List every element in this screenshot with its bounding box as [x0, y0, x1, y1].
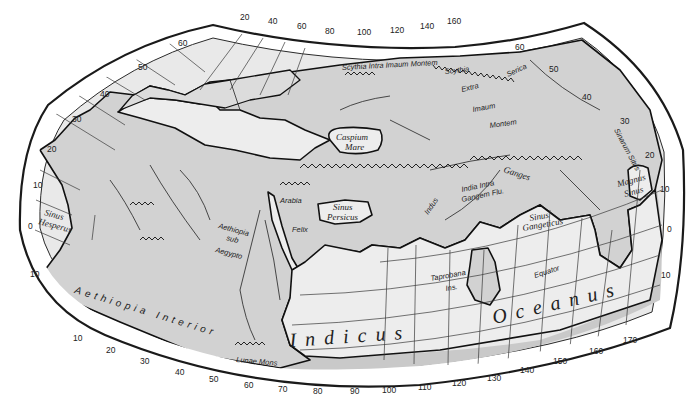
svg-text:140: 140	[420, 21, 434, 31]
svg-text:70: 70	[278, 384, 288, 394]
svg-text:170: 170	[623, 335, 637, 345]
svg-text:10: 10	[660, 184, 670, 194]
svg-text:60: 60	[297, 21, 307, 31]
svg-text:60: 60	[244, 380, 254, 390]
svg-text:60: 60	[515, 42, 525, 52]
svg-text:20: 20	[240, 12, 250, 22]
svg-text:110: 110	[418, 382, 432, 392]
svg-text:0: 0	[28, 221, 33, 231]
svg-text:160: 160	[447, 16, 461, 26]
svg-text:30: 30	[140, 356, 150, 366]
svg-text:80: 80	[313, 386, 323, 396]
svg-text:40: 40	[100, 89, 110, 99]
ptolemy-world-map: 20 40 60 80 100 120 140 160 10 20 30 40 …	[0, 0, 698, 419]
svg-text:140: 140	[520, 365, 534, 375]
label-felix: Felix	[292, 225, 308, 234]
svg-text:160: 160	[589, 346, 603, 356]
svg-text:Mare: Mare	[344, 142, 364, 152]
svg-text:50: 50	[209, 374, 219, 384]
svg-text:40: 40	[582, 92, 592, 102]
label-sinus-persicus: Sinus	[333, 202, 353, 212]
label-arabia: Arabia	[279, 196, 302, 205]
svg-text:10: 10	[33, 180, 43, 190]
longitude-ticks-top: 20 40 60 80 100 120 140 160	[240, 12, 461, 37]
svg-text:10: 10	[30, 269, 40, 279]
svg-text:20: 20	[106, 345, 116, 355]
svg-text:150: 150	[553, 356, 567, 366]
svg-text:120: 120	[452, 378, 466, 388]
svg-text:100: 100	[357, 27, 371, 37]
svg-text:130: 130	[487, 373, 501, 383]
svg-text:20: 20	[645, 150, 655, 160]
svg-text:60: 60	[178, 38, 188, 48]
svg-text:90: 90	[350, 386, 360, 396]
svg-text:30: 30	[72, 114, 82, 124]
svg-text:10: 10	[661, 270, 671, 280]
svg-text:0: 0	[667, 224, 672, 234]
svg-text:80: 80	[325, 26, 335, 36]
svg-text:50: 50	[138, 62, 148, 72]
svg-text:50: 50	[549, 64, 559, 74]
label-caspium-mare: Caspium	[336, 132, 369, 142]
svg-text:20: 20	[47, 144, 57, 154]
svg-text:Persicus: Persicus	[326, 212, 358, 222]
svg-text:100: 100	[382, 385, 396, 395]
svg-text:30: 30	[620, 116, 630, 126]
svg-text:120: 120	[390, 25, 404, 35]
svg-text:40: 40	[268, 16, 278, 26]
svg-text:40: 40	[175, 367, 185, 377]
svg-text:10: 10	[73, 333, 83, 343]
